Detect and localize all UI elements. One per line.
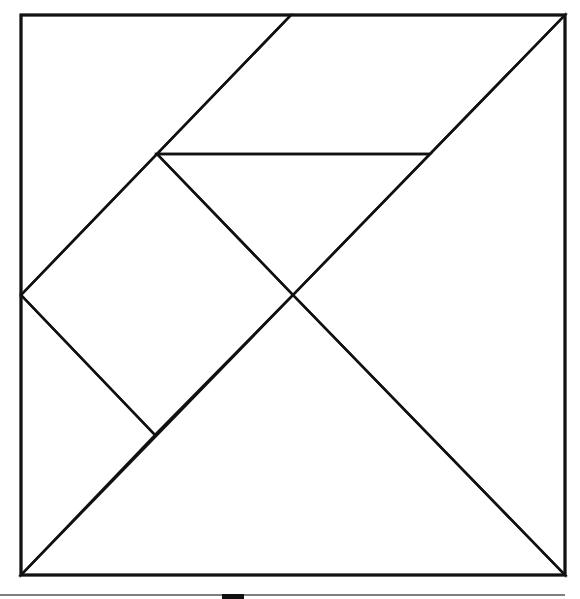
- piece-large-triangle-bottom: [21, 295, 565, 575]
- piece-small-triangle-left: [21, 295, 155, 575]
- piece-square: [21, 154, 293, 435]
- piece-parallelogram-top: [157, 15, 565, 154]
- tangram-svg: [0, 0, 580, 599]
- piece-large-triangle-right: [293, 15, 565, 575]
- footer-mark: [222, 594, 244, 599]
- piece-medium-triangle-top: [157, 154, 430, 295]
